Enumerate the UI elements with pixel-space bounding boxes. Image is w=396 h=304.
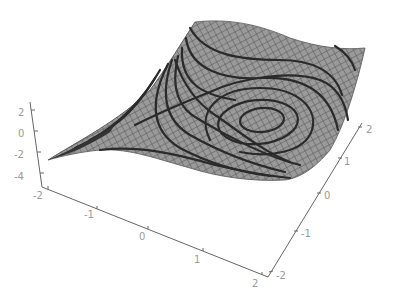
y-tick-label: 1: [344, 157, 350, 167]
y-tick-label: -2: [276, 271, 286, 281]
z-tick-label: 2: [18, 108, 24, 118]
x-tick-label: 0: [139, 232, 145, 242]
z-tick-label: 0: [18, 129, 24, 139]
x-axis-line: [42, 187, 268, 277]
z-tick-label: -2: [14, 150, 24, 160]
y-tick-label: 2: [366, 125, 372, 135]
y-tick-label: 0: [324, 191, 330, 201]
x-tick-label: -1: [84, 210, 94, 220]
x-tick-label: 2: [252, 279, 258, 289]
y-tick-label: -1: [301, 229, 311, 239]
z-axis-line: [30, 102, 42, 187]
x-tick-label: -2: [33, 191, 43, 201]
z-tick-label: -4: [14, 172, 24, 182]
x-tick-label: 1: [194, 255, 200, 265]
